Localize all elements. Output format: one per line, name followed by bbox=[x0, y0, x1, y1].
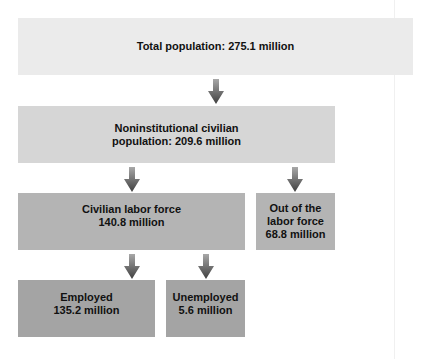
down-arrow-icon bbox=[198, 254, 214, 279]
out-of-labor-line3: 68.8 million bbox=[266, 228, 326, 241]
down-arrow-icon bbox=[208, 79, 224, 104]
employed-line1: Employed bbox=[60, 291, 113, 304]
down-arrow-icon bbox=[124, 167, 140, 192]
labor-force-line2: 140.8 million bbox=[98, 216, 164, 229]
out-of-labor-line2: labor force bbox=[267, 215, 324, 228]
down-arrow-icon bbox=[124, 254, 140, 279]
employed-line2: 135.2 million bbox=[53, 304, 119, 317]
noninstitutional-line1: Noninstitutional civilian bbox=[114, 122, 238, 135]
labor-force-line1: Civilian labor force bbox=[82, 203, 181, 216]
out-of-labor-line1: Out of the bbox=[270, 202, 322, 215]
noninstitutional-population-box: Noninstitutional civilian population: 20… bbox=[18, 106, 335, 163]
unemployed-line2: 5.6 million bbox=[179, 304, 233, 317]
unemployed-line1: Unemployed bbox=[172, 291, 238, 304]
employed-box: Employed 135.2 million bbox=[18, 280, 155, 337]
total-population-box: Total population: 275.1 million bbox=[18, 18, 413, 75]
noninstitutional-line2: population: 209.6 million bbox=[112, 135, 241, 148]
civilian-labor-force-box: Civilian labor force 140.8 million bbox=[18, 193, 245, 250]
out-of-labor-force-box: Out of the labor force 68.8 million bbox=[256, 193, 335, 250]
total-population-label: Total population: 275.1 million bbox=[137, 40, 294, 53]
unemployed-box: Unemployed 5.6 million bbox=[166, 280, 245, 337]
down-arrow-icon bbox=[287, 167, 303, 192]
